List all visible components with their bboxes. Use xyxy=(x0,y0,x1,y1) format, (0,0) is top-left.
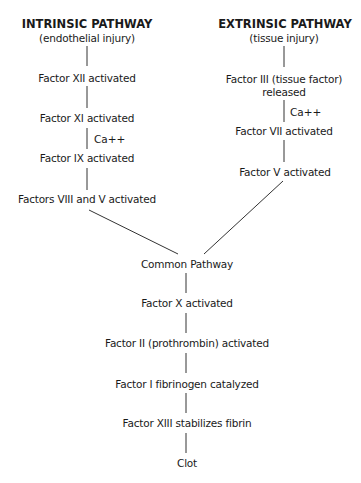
factor-iii-node-released: released xyxy=(262,86,305,98)
factor-v-node: Factor V activated xyxy=(239,166,331,178)
extrinsic-pathway-subtitle: (tissue injury) xyxy=(249,32,318,44)
clot-node: Clot xyxy=(177,457,197,469)
factor-ii-node: Factor II (prothrombin) activated xyxy=(105,337,269,349)
extrinsic-calcium-label: Ca++ xyxy=(290,106,321,118)
factor-ix-node: Factor IX activated xyxy=(40,152,134,164)
factor-vii-node: Factor VII activated xyxy=(235,125,332,137)
intrinsic-pathway-title: INTRINSIC PATHWAY xyxy=(22,18,153,30)
factor-i-node: Factor I fibrinogen catalyzed xyxy=(115,378,258,390)
factor-xiii-node: Factor XIII stabilizes fibrin xyxy=(123,417,252,429)
factor-iii-node: Factor III (tissue factor) xyxy=(226,73,342,85)
intrinsic-calcium-label: Ca++ xyxy=(94,133,125,145)
common-pathway-node: Common Pathway xyxy=(141,258,233,270)
extrinsic-pathway-title: EXTRINSIC PATHWAY xyxy=(218,18,351,30)
factor-xi-node: Factor XI activated xyxy=(40,112,134,124)
factor-x-node: Factor X activated xyxy=(141,297,233,309)
factor-xii-node: Factor XII activated xyxy=(38,72,135,84)
intrinsic-pathway-subtitle: (endothelial injury) xyxy=(39,32,135,44)
factors-viii-v-node: Factors VIII and V activated xyxy=(18,193,156,205)
